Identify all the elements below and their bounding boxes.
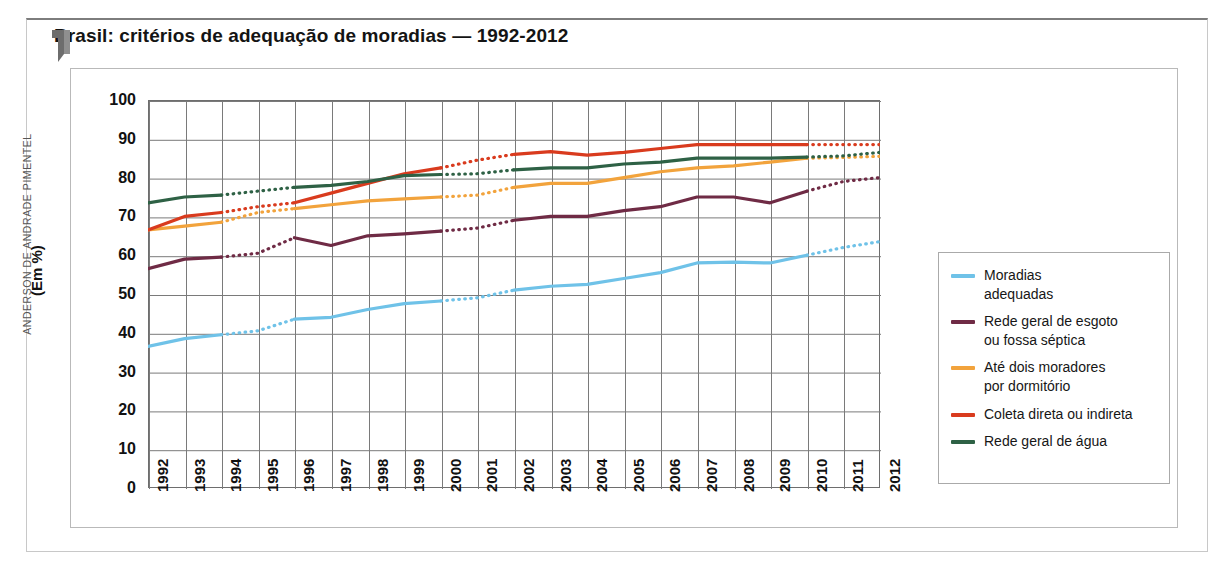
series-3-solid — [514, 145, 807, 155]
legend-label-line1: Coleta direta ou indireta — [984, 405, 1133, 424]
y-tick-label: 0 — [96, 479, 136, 497]
legend-swatch-icon — [951, 440, 975, 444]
x-tick-label: 1994 — [227, 459, 244, 492]
y-tick-label: 80 — [96, 169, 136, 187]
legend-label-line1: Até dois moradores — [984, 358, 1105, 377]
legend-label-line1: Rede geral de esgoto — [984, 312, 1118, 331]
series-2-solid — [294, 197, 440, 209]
legend-label-line1: Moradias — [984, 266, 1053, 285]
y-tick-label: 20 — [96, 401, 136, 419]
series-1-solid — [294, 231, 440, 245]
y-tick-label: 70 — [96, 207, 136, 225]
x-tick-label: 2010 — [813, 459, 830, 492]
series-3-dashed — [221, 203, 294, 213]
x-tick-label: 2009 — [776, 459, 793, 492]
series-0-solid — [514, 255, 807, 290]
y-tick-label: 40 — [96, 324, 136, 342]
chart-legend: MoradiasadequadasRede geral de esgotoou … — [938, 252, 1170, 484]
series-0-solid — [294, 301, 440, 319]
series-1-dashed — [807, 178, 880, 192]
legend-label: Até dois moradorespor dormitório — [984, 358, 1105, 395]
series-4-solid — [294, 175, 440, 188]
x-tick-label: 2003 — [557, 459, 574, 492]
y-tick-label: 30 — [96, 363, 136, 381]
series-1-dashed — [441, 220, 514, 231]
legend-label: Moradiasadequadas — [984, 266, 1053, 303]
y-tick-label: 90 — [96, 130, 136, 148]
legend-label-line2: ou fossa séptica — [984, 331, 1118, 350]
x-tick-label: 2011 — [849, 459, 866, 492]
legend-swatch-icon — [951, 274, 975, 278]
x-tick-label: 2008 — [740, 459, 757, 492]
series-3-dashed — [441, 154, 514, 168]
x-tick-label: 1997 — [337, 459, 354, 492]
legend-label-line1: Rede geral de água — [984, 432, 1107, 451]
series-4-dashed — [221, 187, 294, 195]
x-tick-label: 1999 — [410, 459, 427, 492]
title-bar: Brasil: critérios de adequação de moradi… — [28, 20, 1206, 52]
series-0-solid — [148, 335, 221, 347]
series-1-solid — [514, 191, 807, 220]
x-tick-label: 1992 — [154, 459, 171, 492]
x-tick-label: 2002 — [520, 459, 537, 492]
series-4-solid — [148, 195, 221, 203]
series-0-dashed — [441, 290, 514, 301]
y-tick-label: 10 — [96, 440, 136, 458]
x-tick-label: 1996 — [300, 459, 317, 492]
legend-swatch-icon — [951, 413, 975, 417]
legend-label: Rede geral de esgotoou fossa séptica — [984, 312, 1118, 349]
legend-swatch-icon — [951, 320, 975, 324]
chart-series-layer — [148, 100, 880, 488]
legend-item[interactable]: Rede geral de esgotoou fossa séptica — [951, 312, 1159, 349]
series-1-solid — [148, 257, 221, 269]
x-tick-label: 2007 — [703, 459, 720, 492]
legend-label-line2: adequadas — [984, 285, 1053, 304]
legend-label: Rede geral de água — [984, 432, 1107, 451]
legend-label-line2: por dormitório — [984, 377, 1105, 396]
x-tick-label: 1993 — [191, 459, 208, 492]
x-tick-label: 2004 — [593, 459, 610, 492]
x-tick-label: 2005 — [630, 459, 647, 492]
series-4-dashed — [441, 170, 514, 175]
legend-item[interactable]: Até dois moradorespor dormitório — [951, 358, 1159, 395]
legend-item[interactable]: Rede geral de água — [951, 432, 1159, 451]
credit-line: ANDERSON DE ANDRADE PIMENTEL — [21, 119, 33, 349]
y-axis-label: (Em %) — [28, 245, 45, 296]
series-1-dashed — [221, 238, 294, 257]
series-0-dashed — [221, 319, 294, 335]
y-tick-label: 60 — [96, 246, 136, 264]
x-tick-label: 2000 — [447, 459, 464, 492]
series-0-dashed — [807, 242, 880, 256]
x-tick-label: 1995 — [264, 459, 281, 492]
x-tick-label: 2006 — [666, 459, 683, 492]
legend-swatch-icon — [951, 366, 975, 370]
y-axis-ticks: 1009080706050403020100 — [92, 0, 136, 571]
y-tick-label: 50 — [96, 285, 136, 303]
flag-bookmark-icon — [50, 28, 72, 68]
x-tick-label: 2001 — [483, 459, 500, 492]
y-tick-label: 100 — [96, 91, 136, 109]
x-tick-label: 1998 — [374, 459, 391, 492]
legend-item[interactable]: Coleta direta ou indireta — [951, 405, 1159, 424]
x-tick-label: 2012 — [886, 459, 903, 492]
legend-item[interactable]: Moradiasadequadas — [951, 266, 1159, 303]
series-2-dashed — [441, 187, 514, 197]
legend-label: Coleta direta ou indireta — [984, 405, 1133, 424]
series-4-dashed — [807, 152, 880, 157]
